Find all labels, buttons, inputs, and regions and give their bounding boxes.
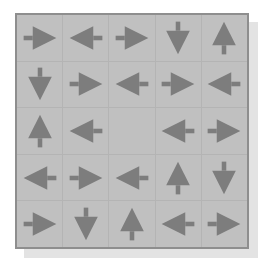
arrow-left-icon bbox=[204, 64, 244, 104]
grid-cell-arrow-right bbox=[109, 15, 154, 61]
grid-cell-arrow-right bbox=[63, 155, 108, 201]
grid-cell-arrow-left bbox=[202, 62, 247, 108]
arrow-grid bbox=[15, 13, 249, 249]
arrow-down-icon bbox=[158, 18, 198, 58]
arrow-up-icon bbox=[20, 111, 60, 151]
arrow-left-icon bbox=[112, 158, 152, 198]
grid-cell-arrow-right bbox=[156, 62, 201, 108]
grid-cell-arrow-left bbox=[156, 108, 201, 154]
grid-cell-arrow-left bbox=[17, 155, 62, 201]
grid-cell-arrow-right bbox=[63, 62, 108, 108]
arrow-left-icon bbox=[66, 111, 106, 151]
arrow-right-icon bbox=[204, 204, 244, 244]
grid-cell-arrow-up bbox=[109, 201, 154, 247]
arrow-grid-figure bbox=[0, 0, 273, 265]
arrow-right-icon bbox=[20, 18, 60, 58]
arrow-left-icon bbox=[112, 64, 152, 104]
grid-cell-arrow-left bbox=[63, 15, 108, 61]
grid-cell-arrow-right bbox=[202, 201, 247, 247]
arrow-right-icon bbox=[66, 158, 106, 198]
arrow-left-icon bbox=[66, 18, 106, 58]
grid-cell-arrow-left bbox=[63, 108, 108, 154]
grid-cell-arrow-up bbox=[17, 108, 62, 154]
arrow-right-icon bbox=[20, 204, 60, 244]
grid-cell-arrow-up bbox=[156, 155, 201, 201]
arrow-up-icon bbox=[158, 158, 198, 198]
grid-cell-arrow-down bbox=[156, 15, 201, 61]
grid-cell-arrow-left bbox=[109, 155, 154, 201]
arrow-up-icon bbox=[112, 204, 152, 244]
grid-cell-empty bbox=[109, 108, 154, 154]
arrow-down-icon bbox=[66, 204, 106, 244]
grid-cell-arrow-left bbox=[156, 201, 201, 247]
grid-cell-arrow-left bbox=[109, 62, 154, 108]
arrow-down-icon bbox=[204, 158, 244, 198]
grid-cell-arrow-down bbox=[202, 155, 247, 201]
grid-cell-arrow-right bbox=[17, 15, 62, 61]
arrow-right-icon bbox=[112, 18, 152, 58]
arrow-left-icon bbox=[20, 158, 60, 198]
grid-cell-arrow-down bbox=[63, 201, 108, 247]
arrow-up-icon bbox=[204, 18, 244, 58]
arrow-right-icon bbox=[66, 64, 106, 104]
arrow-down-icon bbox=[20, 64, 60, 104]
grid-cell-arrow-up bbox=[202, 15, 247, 61]
grid-cell-arrow-down bbox=[17, 62, 62, 108]
grid-cell-arrow-right bbox=[17, 201, 62, 247]
arrow-left-icon bbox=[158, 111, 198, 151]
arrow-right-icon bbox=[204, 111, 244, 151]
arrow-left-icon bbox=[158, 204, 198, 244]
arrow-right-icon bbox=[158, 64, 198, 104]
grid-cell-arrow-right bbox=[202, 108, 247, 154]
